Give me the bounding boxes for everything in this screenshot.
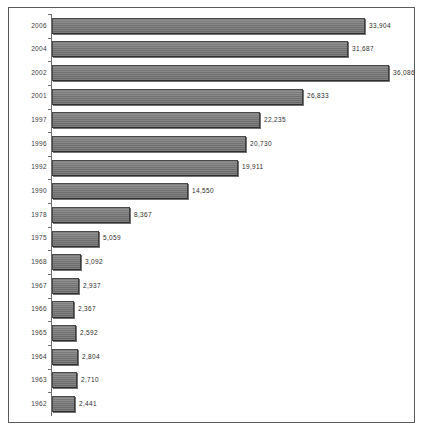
bar-wrapper: 2,937 xyxy=(52,274,410,298)
bar-value-label: 2,592 xyxy=(80,330,98,337)
category-label-year: 2001 xyxy=(15,93,47,100)
bar-wrapper: 2,804 xyxy=(52,345,410,369)
bar-value-label: 2,804 xyxy=(82,354,100,361)
bar-wrapper: 36,086 xyxy=(52,61,411,85)
axis-tick-mark xyxy=(48,85,51,86)
bar-wrapper: 14,550 xyxy=(52,179,410,203)
bar-value-label: 36,086 xyxy=(393,70,415,77)
bar-row: 19662,367 xyxy=(51,298,410,322)
bar-row: 199722,235 xyxy=(51,109,410,133)
axis-tick-mark xyxy=(48,274,51,275)
bar-wrapper: 19,911 xyxy=(52,156,410,180)
bar[interactable] xyxy=(52,183,188,199)
bar[interactable] xyxy=(52,160,238,176)
bar-wrapper: 2,710 xyxy=(52,369,410,393)
bar[interactable] xyxy=(52,18,365,34)
bar[interactable] xyxy=(52,207,130,223)
axis-tick-mark xyxy=(48,179,51,180)
bar-value-label: 2,441 xyxy=(79,401,97,408)
bar[interactable] xyxy=(52,136,246,152)
category-label-year: 1975 xyxy=(15,235,47,242)
bar-wrapper: 22,235 xyxy=(52,109,410,133)
bar-wrapper: 2,367 xyxy=(52,298,410,322)
bar-row: 19622,441 xyxy=(51,392,410,416)
bar-value-label: 33,904 xyxy=(369,23,391,30)
bar-value-label: 14,550 xyxy=(192,188,214,195)
bar-row: 19652,592 xyxy=(51,321,410,345)
bar-row: 200126,833 xyxy=(51,85,410,109)
bar-value-label: 2,937 xyxy=(83,283,101,290)
category-label-year: 1968 xyxy=(15,259,47,266)
axis-tick-mark xyxy=(48,14,51,15)
axis-tick-mark xyxy=(48,321,51,322)
bar[interactable] xyxy=(52,278,79,294)
bar-wrapper: 26,833 xyxy=(52,85,410,109)
bar-wrapper: 31,687 xyxy=(52,38,410,62)
bar-value-label: 2,710 xyxy=(81,377,99,384)
bar[interactable] xyxy=(52,396,75,412)
bar[interactable] xyxy=(52,41,348,57)
category-label-year: 1996 xyxy=(15,141,47,148)
bar-wrapper: 33,904 xyxy=(52,14,410,38)
category-label-year: 1964 xyxy=(15,354,47,361)
bar-value-label: 22,235 xyxy=(264,117,286,124)
bar-wrapper: 3,092 xyxy=(52,250,410,274)
bar[interactable] xyxy=(52,301,74,317)
bar-row: 200236,086 xyxy=(51,61,410,85)
bar[interactable] xyxy=(52,231,99,247)
bar-row: 19683,092 xyxy=(51,250,410,274)
axis-tick-mark xyxy=(48,61,51,62)
bar[interactable] xyxy=(52,349,78,365)
bar-row: 200633,904 xyxy=(51,14,410,38)
bar-value-label: 31,687 xyxy=(352,46,374,53)
category-label-year: 2006 xyxy=(15,23,47,30)
bar[interactable] xyxy=(52,65,389,81)
chart-root: 200633,904200431,687200236,086200126,833… xyxy=(0,0,423,433)
bar[interactable] xyxy=(52,112,260,128)
bar-value-label: 2,367 xyxy=(78,306,96,313)
bar[interactable] xyxy=(52,254,81,270)
axis-tick-mark xyxy=(48,345,51,346)
axis-tick-mark xyxy=(48,132,51,133)
category-label-year: 1997 xyxy=(15,117,47,124)
axis-tick-mark xyxy=(48,392,51,393)
bar-wrapper: 5,059 xyxy=(52,227,410,251)
axis-tick-mark xyxy=(48,250,51,251)
bar[interactable] xyxy=(52,89,303,105)
bar-rows-container: 200633,904200431,687200236,086200126,833… xyxy=(15,14,410,416)
chart-plot-frame: 200633,904200431,687200236,086200126,833… xyxy=(8,7,415,423)
bar-wrapper: 20,730 xyxy=(52,132,410,156)
bar[interactable] xyxy=(52,372,77,388)
axis-tick-mark xyxy=(48,298,51,299)
category-label-year: 1978 xyxy=(15,212,47,219)
bar-row: 19672,937 xyxy=(51,274,410,298)
axis-tick-mark xyxy=(48,227,51,228)
bar-value-label: 20,730 xyxy=(250,141,272,148)
bar-value-label: 8,367 xyxy=(134,212,152,219)
axis-tick-mark xyxy=(48,156,51,157)
bar[interactable] xyxy=(52,325,76,341)
bar-wrapper: 2,592 xyxy=(52,321,410,345)
bar-row: 199620,730 xyxy=(51,132,410,156)
bar-wrapper: 2,441 xyxy=(52,392,410,416)
bar-row: 199014,550 xyxy=(51,179,410,203)
bar-row: 19632,710 xyxy=(51,369,410,393)
category-label-year: 1966 xyxy=(15,306,47,313)
bar-row: 199219,911 xyxy=(51,156,410,180)
bar-value-label: 3,092 xyxy=(85,259,103,266)
bar-row: 19755,059 xyxy=(51,227,410,251)
bar-value-label: 26,833 xyxy=(307,93,329,100)
bar-value-label: 5,059 xyxy=(103,235,121,242)
bar-row: 200431,687 xyxy=(51,38,410,62)
category-label-year: 2002 xyxy=(15,70,47,77)
category-label-year: 1962 xyxy=(15,401,47,408)
bar-row: 19642,804 xyxy=(51,345,410,369)
axis-tick-mark xyxy=(48,109,51,110)
chart-plot-area: 200633,904200431,687200236,086200126,833… xyxy=(9,8,414,422)
axis-tick-mark xyxy=(48,369,51,370)
category-label-year: 1963 xyxy=(15,377,47,384)
bar-wrapper: 8,367 xyxy=(52,203,410,227)
bar-value-label: 19,911 xyxy=(242,164,264,171)
axis-tick-mark xyxy=(48,38,51,39)
category-label-year: 1992 xyxy=(15,164,47,171)
